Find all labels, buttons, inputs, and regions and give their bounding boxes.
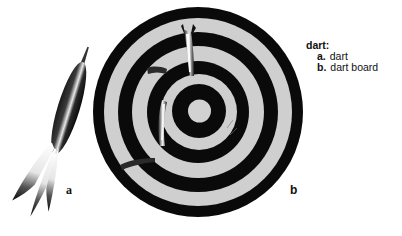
legend: dart: a.dart b.dart board [306, 40, 378, 73]
figure-label-b: b [290, 183, 297, 197]
legend-label-b: dart board [330, 61, 378, 73]
bullseye [188, 100, 211, 123]
dart-board [93, 7, 303, 217]
legend-key-b: b. [317, 61, 326, 73]
dart-a [9, 39, 98, 221]
figure-label-a: a [66, 183, 72, 198]
dart-barrel [44, 59, 93, 157]
illustration [0, 0, 402, 236]
legend-item-b: b.dart board [306, 62, 378, 73]
